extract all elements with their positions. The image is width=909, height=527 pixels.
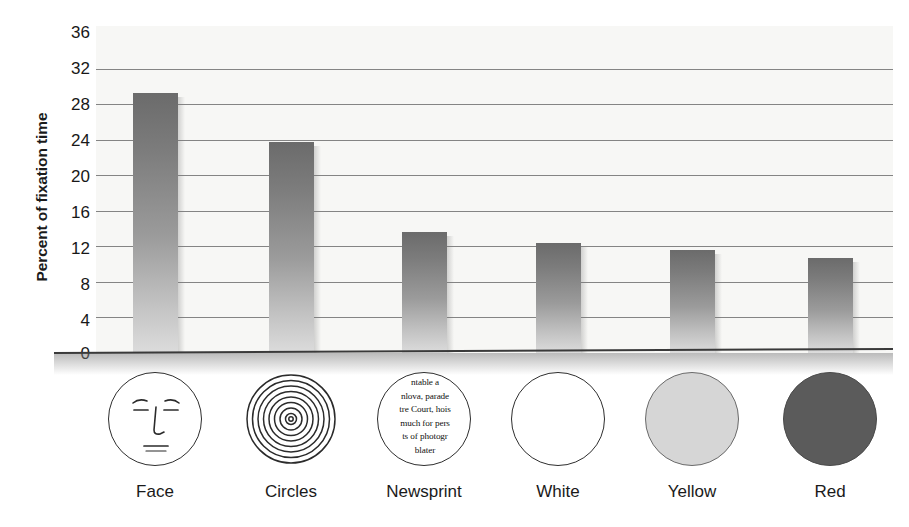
red-circle-icon xyxy=(783,372,877,466)
newsprint-line: nlova, parade xyxy=(378,390,471,404)
bar-white xyxy=(536,243,581,353)
y-tick-label: 4 xyxy=(46,311,90,331)
gridline xyxy=(96,246,893,247)
plot-inner xyxy=(96,26,893,353)
y-tick-label: 32 xyxy=(46,59,90,79)
white-circle-icon xyxy=(511,372,605,466)
gridline xyxy=(96,140,893,141)
icon-wrap-yellow xyxy=(645,372,743,470)
y-tick-label: 36 xyxy=(46,23,90,43)
newsprint-text: ntable anlova, paradetre Court, hoismuch… xyxy=(378,373,471,466)
gridline xyxy=(96,69,893,70)
gridline xyxy=(96,175,893,176)
bar-face xyxy=(133,93,178,353)
x-axis-label-row: FaceCirclesNewsprintWhiteYellowRed xyxy=(0,482,909,522)
gridline xyxy=(96,317,893,318)
y-tick-label: 20 xyxy=(46,167,90,187)
y-axis-tick-labels: 36 32 28 24 20 16 12 8 4 0 xyxy=(46,0,90,380)
y-tick-label: 16 xyxy=(46,203,90,223)
newsprint-line: ntable a xyxy=(378,376,471,390)
x-axis-label-red: Red xyxy=(745,482,909,502)
plot-area xyxy=(96,26,893,353)
category-icon-row: ntable anlova, paradetre Court, hoismuch… xyxy=(0,372,909,477)
bar-newsprint xyxy=(402,232,447,353)
newsprint-icon: ntable anlova, paradetre Court, hoismuch… xyxy=(377,372,471,466)
yellow-circle-icon xyxy=(645,372,739,466)
icon-wrap-red xyxy=(783,372,881,470)
newsprint-line: ts of photogr xyxy=(378,430,471,444)
bar-red xyxy=(808,258,853,353)
face-icon xyxy=(108,372,202,466)
newsprint-line: tre Court, hois xyxy=(378,403,471,417)
gridline xyxy=(96,104,893,105)
bar-chart: Percent of fixation time 36 32 28 24 20 … xyxy=(0,0,909,527)
newsprint-line: blater xyxy=(378,444,471,458)
gridline xyxy=(96,282,893,283)
bar-circles xyxy=(269,142,314,353)
y-tick-label: 8 xyxy=(46,275,90,295)
y-tick-label: 28 xyxy=(46,95,90,115)
bar-yellow xyxy=(670,250,715,353)
icon-wrap-newsprint: ntable anlova, paradetre Court, hoismuch… xyxy=(377,372,475,470)
icon-wrap-face xyxy=(108,372,206,470)
newsprint-line: much for pers xyxy=(378,417,471,431)
icon-wrap-circles xyxy=(244,372,342,470)
gridline xyxy=(96,211,893,212)
icon-wrap-white xyxy=(511,372,609,470)
y-tick-label: 12 xyxy=(46,239,90,259)
concentric-circles-icon xyxy=(244,372,338,466)
y-tick-label: 24 xyxy=(46,131,90,151)
